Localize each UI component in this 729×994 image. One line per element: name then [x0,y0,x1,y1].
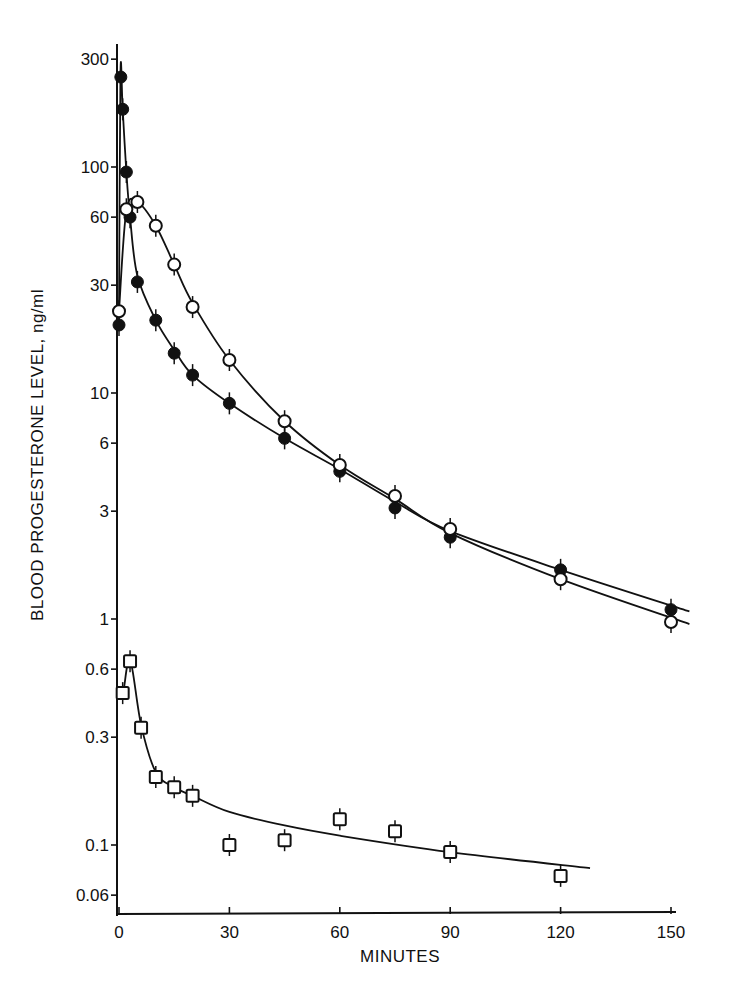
open-circle-marker [334,459,346,471]
open-square-marker [555,870,567,882]
open-circle-marker [113,305,125,317]
open-square-marker [124,655,136,667]
y-tick-label: 10 [90,384,109,403]
y-axis-title: BLOOD PROGESTERONE LEVEL, ng/ml [28,289,47,621]
y-tick-label: 0.1 [85,836,109,855]
filled-circle-marker [187,369,199,381]
filled-circle-fit-curve [119,62,689,611]
open-square-marker [135,722,147,734]
filled-circle-marker [279,432,291,444]
filled-circle-marker [150,314,162,326]
open-circle-marker [444,523,456,535]
open-circle-marker [389,490,401,502]
square-fit-curve [119,659,590,868]
open-square-marker [444,846,456,858]
y-tick-label: 0.3 [85,728,109,747]
x-tick-label: 0 [114,923,123,942]
open-square-marker [279,834,291,846]
filled-circle-marker [115,71,127,83]
x-tick-label: 30 [220,923,239,942]
open-circle-marker [150,220,162,232]
y-tick-label: 3 [100,502,109,521]
y-tick-label: 6 [100,434,109,453]
filled-circle-marker [120,166,132,178]
progesterone-chart: 3001006030106310.60.30.10.06030609012015… [0,0,729,994]
open-circle-marker [131,196,143,208]
fit-curves [119,62,689,868]
filled-circle-marker [131,276,143,288]
open-square-marker [223,839,235,851]
open-circle-marker [168,259,180,271]
open-square-marker [389,825,401,837]
open-circle-fit-curve [119,199,689,624]
open-circle-marker [120,203,132,215]
x-tick-label: 150 [657,923,685,942]
open-circle-marker [223,354,235,366]
data-points [113,66,677,887]
y-tick-label: 0.6 [85,660,109,679]
x-tick-label: 120 [546,923,574,942]
open-square-marker [150,771,162,783]
x-axis-title: MINUTES [360,947,440,966]
open-circle-marker [555,573,567,585]
open-square-marker [117,687,129,699]
open-square-marker [187,790,199,802]
filled-circle-marker [117,103,129,115]
y-tick-label: 30 [90,276,109,295]
y-tick-label: 60 [90,208,109,227]
open-square-marker [334,813,346,825]
filled-circle-marker [168,347,180,359]
y-tick-label: 300 [81,50,109,69]
x-axis-line [117,912,676,914]
x-tick-label: 90 [441,923,460,942]
open-square-marker [168,781,180,793]
open-circle-marker [187,301,199,313]
y-tick-label: 0.06 [76,886,109,905]
open-circle-marker [279,415,291,427]
filled-circle-marker [223,397,235,409]
y-tick-label: 100 [81,158,109,177]
x-tick-label: 60 [330,923,349,942]
y-tick-label: 1 [100,610,109,629]
open-circle-marker [665,616,677,628]
